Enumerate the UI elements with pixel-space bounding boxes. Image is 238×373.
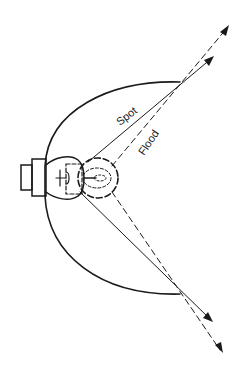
filament (56, 170, 69, 186)
beam-diagram: Spot Flood (0, 0, 238, 373)
spot-label: Spot (114, 104, 139, 127)
bulb-base (32, 159, 46, 196)
flood-beam-upper (112, 28, 227, 166)
flood-label: Flood (136, 128, 161, 158)
flood-beam-lower (112, 192, 220, 350)
spot-beam-lower (80, 192, 210, 319)
bulb-base-cap (21, 165, 32, 190)
spot-upper-arrow-icon (204, 56, 214, 66)
